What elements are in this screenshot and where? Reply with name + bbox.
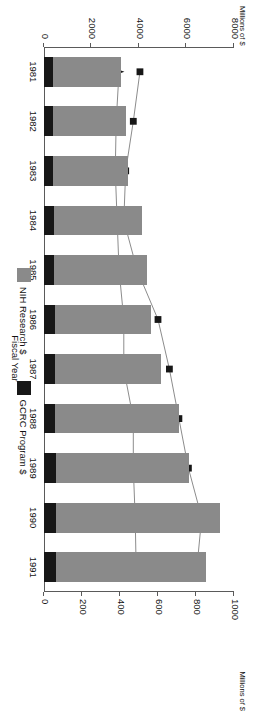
bar-group (44, 206, 142, 236)
bar-group (44, 106, 126, 136)
y2-axis-tick-label: 400 (116, 599, 127, 615)
bar-group (44, 57, 121, 87)
bar-segment (53, 57, 121, 87)
bar-segment (44, 404, 55, 434)
y2-axis-tick (233, 592, 234, 596)
bar-group (44, 255, 147, 285)
bar-segment (55, 305, 151, 335)
x-axis-tick-label: 1990 (28, 493, 39, 543)
bar-segment (53, 106, 126, 136)
y-axis-tick (186, 43, 187, 47)
bar-segment (44, 255, 54, 285)
x-axis-tick-label: 1984 (28, 196, 39, 246)
y2-axis-unit-label: Millions of $ (238, 671, 247, 711)
bar-segment (44, 206, 54, 236)
bar-segment (54, 255, 147, 285)
y2-axis-tick (81, 592, 82, 596)
x-axis-tick-label: 1982 (28, 97, 39, 147)
bar-segment (54, 206, 142, 236)
y2-axis-tick-label: 800 (192, 599, 203, 615)
y-axis-tick (138, 43, 139, 47)
series-marker-square (166, 366, 173, 373)
y2-axis-tick-label: 600 (154, 599, 165, 615)
bar-group (44, 156, 128, 186)
y-axis-tick (91, 43, 92, 47)
bar-segment (55, 354, 161, 384)
y-axis-tick-label: 6000 (183, 0, 194, 39)
bar-segment (44, 57, 53, 87)
y-axis-tick (233, 43, 234, 47)
legend-swatch (17, 268, 31, 282)
y2-axis-tick (119, 592, 120, 596)
bar-segment (44, 106, 53, 136)
y-axis-tick-label: 0 (40, 0, 51, 39)
bar-segment (44, 156, 54, 186)
bar-group (44, 552, 206, 582)
bar-segment (44, 354, 55, 384)
bar-segment (55, 404, 179, 434)
legend-item: GCRC Program $ (17, 381, 31, 475)
x-axis-tick-label: 1981 (28, 47, 39, 97)
y-axis-tick-label: 8000 (230, 0, 241, 39)
y2-axis-tick-label: 1000 (230, 599, 241, 620)
y-axis-tick-label: 2000 (88, 0, 99, 39)
bar-segment (56, 503, 220, 533)
bar-group (44, 305, 151, 335)
legend-label: NIH Research $ (19, 287, 30, 355)
chart-rotation-frame: Millions of $ Millions of $ 020004000600… (0, 0, 269, 717)
legend-swatch (17, 381, 31, 395)
bar-group (44, 354, 161, 384)
y2-axis-tick (195, 592, 196, 596)
y-axis-tick-label: 4000 (135, 0, 146, 39)
bar-segment (56, 453, 189, 483)
legend-item: NIH Research $ (17, 268, 31, 355)
chart-canvas: Millions of $ Millions of $ 020004000600… (0, 0, 269, 717)
series-marker-square (137, 68, 144, 75)
bar-segment (56, 552, 206, 582)
chart-legend: NIH Research $GCRC Program $ (17, 268, 31, 475)
series-marker-square (155, 316, 162, 323)
bar-segment (44, 453, 56, 483)
y2-axis-tick-label: 200 (78, 599, 89, 615)
bar-group (44, 503, 220, 533)
series-marker-square (130, 118, 137, 125)
bar-segment (44, 503, 56, 533)
y2-axis-tick-label: 0 (40, 599, 51, 604)
bar-segment (44, 552, 56, 582)
bar-segment (44, 305, 55, 335)
x-axis-tick-label: 1983 (28, 146, 39, 196)
legend-label: GCRC Program $ (19, 400, 30, 475)
y2-axis-tick (157, 592, 158, 596)
bar-group (44, 453, 189, 483)
x-axis-tick-label: 1991 (28, 542, 39, 592)
bar-segment (54, 156, 129, 186)
y-axis-tick (43, 43, 44, 47)
bar-group (44, 404, 179, 434)
y2-axis-tick (43, 592, 44, 596)
